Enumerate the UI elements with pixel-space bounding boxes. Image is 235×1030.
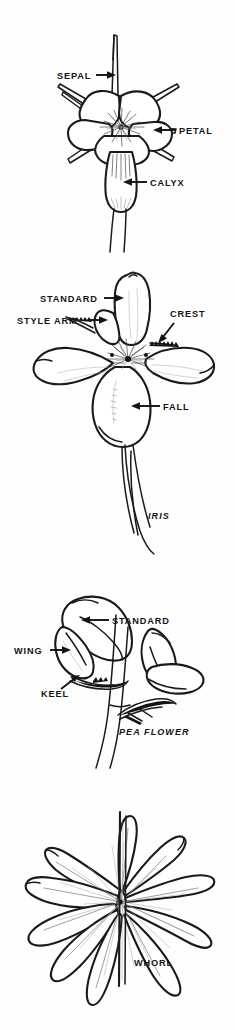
label-crest: CREST — [158, 309, 205, 343]
label-calyx-text: CALYX — [150, 178, 185, 188]
panel-pea-flower: STANDARD WING KEEL PEA FLOWER — [0, 555, 235, 770]
panel-iris: STANDARD STYLE ARM CREST FALL — [0, 255, 235, 555]
label-keel: KEEL — [41, 675, 80, 699]
flower-stem — [110, 209, 126, 252]
label-standard-pea-text: STANDARD — [112, 616, 170, 626]
pea-lower-wing — [147, 664, 204, 693]
pea-keel — [70, 677, 128, 689]
iris-center-fall — [93, 367, 151, 447]
label-style-arm-text: STYLE ARM — [17, 316, 77, 326]
panel-whorl: WHORL — [0, 770, 235, 1030]
iris-right-fall — [145, 348, 214, 384]
label-standard-iris: STANDARD — [40, 294, 124, 304]
label-sepal: SEPAL — [57, 71, 116, 81]
label-crest-text: CREST — [170, 309, 205, 319]
panel-generic-flower: SEPAL PETAL CALYX — [0, 0, 235, 255]
label-standard-iris-text: STANDARD — [40, 294, 98, 304]
diagram-page: SEPAL PETAL CALYX — [0, 0, 235, 1030]
label-keel-text: KEEL — [41, 689, 69, 699]
label-sepal-text: SEPAL — [57, 71, 91, 81]
label-whorl-text: WHORL — [134, 958, 173, 968]
label-whorl: WHORL — [134, 958, 173, 968]
label-wing-text: WING — [14, 646, 42, 656]
caption-pea-flower: PEA FLOWER — [119, 727, 190, 737]
caption-iris: IRIS — [148, 511, 170, 521]
label-fall-text: FALL — [163, 402, 189, 412]
label-petal-text: PETAL — [179, 126, 213, 136]
iris-stem — [122, 445, 154, 554]
pea-lower-calyx — [118, 699, 176, 725]
iris-crest-right — [149, 341, 179, 347]
